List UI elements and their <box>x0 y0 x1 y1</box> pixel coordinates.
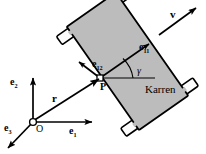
diagram-canvas <box>0 0 206 154</box>
label-origin: O <box>36 124 43 134</box>
label-e12: e12 <box>92 59 103 69</box>
label-point-p: P <box>100 82 106 92</box>
label-gamma: γ <box>137 66 141 76</box>
velocity-vector-arrow <box>159 8 196 35</box>
label-v: v <box>170 9 176 20</box>
label-e2: e2 <box>10 77 18 87</box>
label-e1: e1 <box>69 126 77 136</box>
position-vector-r-arrow <box>33 79 99 121</box>
label-karren: Karren <box>145 84 176 95</box>
vector-diagram-figure: e1 e2 e3 e11 e12 r v O P γ Karren <box>0 0 206 154</box>
label-e3: e3 <box>4 123 12 133</box>
label-r: r <box>52 93 57 104</box>
e3-axis-arrow <box>8 122 33 148</box>
label-e11: e11 <box>139 42 149 52</box>
